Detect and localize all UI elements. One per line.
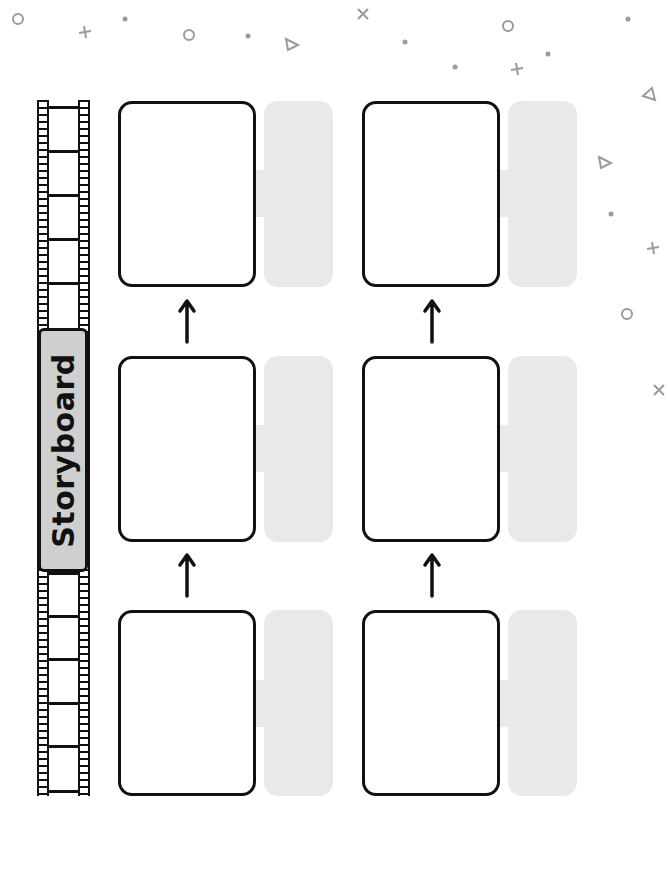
caption-box-1[interactable] bbox=[264, 101, 333, 287]
caption-box-2[interactable] bbox=[264, 356, 333, 542]
film-frame-divider bbox=[49, 790, 78, 793]
dot-icon bbox=[545, 51, 551, 57]
circle-icon bbox=[620, 307, 634, 321]
plus-icon bbox=[645, 240, 661, 256]
page-title: Storyboard bbox=[46, 353, 81, 548]
storyboard-panel-6[interactable] bbox=[362, 610, 500, 796]
film-frame-divider bbox=[49, 194, 78, 197]
caption-box-4[interactable] bbox=[508, 101, 577, 287]
caption-box-3[interactable] bbox=[264, 610, 333, 796]
arrow-up-icon bbox=[177, 552, 197, 598]
plus-icon bbox=[509, 61, 525, 77]
film-frame-divider bbox=[49, 702, 78, 705]
dot-icon bbox=[122, 16, 128, 22]
x-icon bbox=[356, 7, 370, 21]
film-frame-divider bbox=[49, 615, 78, 618]
caption-box-5[interactable] bbox=[508, 356, 577, 542]
storyboard-panel-4[interactable] bbox=[362, 101, 500, 287]
triangle-icon bbox=[640, 86, 658, 102]
dot-icon bbox=[452, 64, 458, 70]
film-frame-divider bbox=[49, 282, 78, 285]
caption-box-6[interactable] bbox=[508, 610, 577, 796]
storyboard-panel-2[interactable] bbox=[118, 356, 256, 542]
film-frame-divider bbox=[49, 572, 78, 575]
plus-icon bbox=[77, 24, 93, 40]
storyboard-panel-5[interactable] bbox=[362, 356, 500, 542]
storyboard-panel-1[interactable] bbox=[118, 101, 256, 287]
circle-icon bbox=[11, 12, 25, 26]
circle-icon bbox=[182, 28, 196, 42]
film-frame-divider bbox=[49, 150, 78, 153]
x-icon bbox=[652, 383, 666, 397]
dot-icon bbox=[245, 33, 251, 39]
arrow-up-icon bbox=[422, 298, 442, 344]
dot-icon bbox=[608, 211, 614, 217]
triangle-icon bbox=[596, 155, 614, 171]
storyboard-panel-3[interactable] bbox=[118, 610, 256, 796]
film-frame-divider bbox=[49, 745, 78, 748]
triangle-icon bbox=[283, 37, 301, 53]
arrow-up-icon bbox=[177, 298, 197, 344]
title-plate: Storyboard bbox=[38, 328, 88, 572]
circle-icon bbox=[501, 19, 515, 33]
dot-icon bbox=[625, 16, 631, 22]
film-frame-divider bbox=[49, 106, 78, 109]
film-frame-divider bbox=[49, 238, 78, 241]
film-frame-divider bbox=[49, 658, 78, 661]
dot-icon bbox=[402, 39, 408, 45]
arrow-up-icon bbox=[422, 552, 442, 598]
